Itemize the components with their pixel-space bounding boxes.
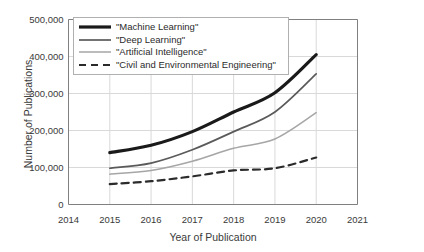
legend-label: "Machine Learning": [116, 21, 198, 33]
x-tick-label: 2021: [335, 214, 381, 225]
series-line-3: [110, 158, 316, 185]
x-axis-title: Year of Publication: [68, 231, 358, 243]
thick-solid-line-icon: [78, 21, 112, 33]
light-solid-line-icon: [78, 46, 112, 58]
y-tick-label: 100,000: [6, 162, 64, 173]
legend-item-1: "Deep Learning": [78, 34, 284, 47]
y-tick-label: 200,000: [6, 125, 64, 136]
legend-label: "Artificial Intelligence": [116, 46, 207, 58]
y-tick-label: 500,000: [6, 14, 64, 25]
x-tick-label: 2014: [46, 214, 92, 225]
legend-item-3: "Civil and Environmental Engineering": [78, 59, 284, 72]
legend-item-2: "Artificial Intelligence": [78, 46, 284, 59]
y-tick-label: 300,000: [6, 88, 64, 99]
x-tick-label: 2017: [169, 214, 215, 225]
chart-legend: "Machine Learning""Deep Learning""Artifi…: [73, 17, 289, 75]
publications-line-chart: 0100,000200,000300,000400,000500,000 201…: [0, 0, 424, 252]
x-tick-label: 2015: [87, 214, 133, 225]
legend-label: "Civil and Environmental Engineering": [116, 59, 276, 71]
dashed-line-icon: [78, 59, 112, 71]
x-tick-label: 2019: [252, 214, 298, 225]
legend-item-0: "Machine Learning": [78, 21, 284, 34]
y-tick-label: 400,000: [6, 51, 64, 62]
x-tick-label: 2016: [128, 214, 174, 225]
legend-label: "Deep Learning": [116, 34, 185, 46]
medium-solid-line-icon: [78, 34, 112, 46]
y-tick-label: 0: [6, 199, 64, 210]
y-axis-title: Number of Publications: [22, 39, 34, 189]
x-tick-label: 2018: [211, 214, 257, 225]
x-tick-label: 2020: [293, 214, 339, 225]
